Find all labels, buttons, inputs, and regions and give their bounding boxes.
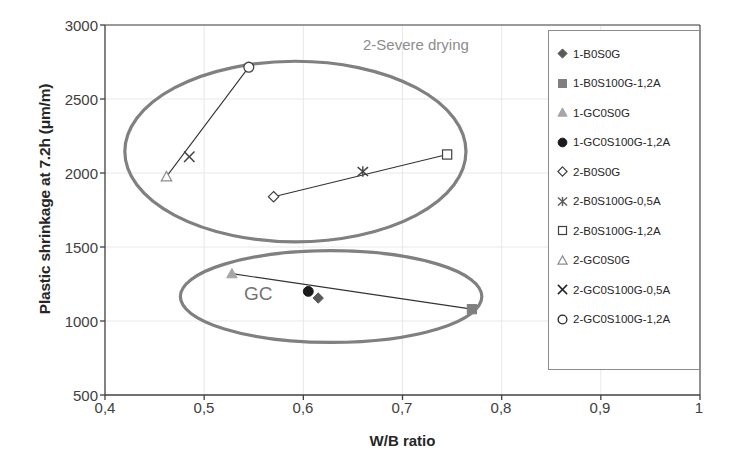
filled-triangle-icon [555, 105, 570, 120]
cross-x-icon [555, 282, 570, 297]
data-point [303, 286, 313, 296]
legend-item[interactable]: 2-GC0S100G-1,2A [555, 305, 699, 335]
data-point [227, 268, 237, 277]
legend-item-label: 2-GC0S0G [573, 254, 630, 266]
legend-item[interactable]: 1-B0S100G-1,2A [555, 69, 699, 99]
legend-item[interactable]: 1-GC0S100G-1,2A [555, 128, 699, 158]
open-triangle-icon [555, 253, 570, 268]
data-point [244, 62, 254, 72]
data-point [313, 293, 323, 303]
legend-item-label: 1-B0S0G [573, 48, 620, 60]
legend-item[interactable]: 2-B0S100G-1,2A [555, 216, 699, 246]
open-square-icon [555, 223, 570, 238]
data-markers [161, 62, 476, 314]
open-circle-icon [555, 312, 570, 327]
legend-item-label: 1-GC0S100G-1,2A [573, 136, 670, 148]
open-diamond-icon [555, 164, 570, 179]
data-point [184, 152, 194, 162]
legend-item-label: 2-B0S0G [573, 166, 620, 178]
data-point [358, 166, 368, 176]
legend-item-label: 2-B0S100G-0,5A [573, 195, 661, 207]
data-point [467, 305, 476, 314]
data-point [443, 150, 452, 159]
filled-square-icon [555, 76, 570, 91]
legend-item[interactable]: 1-B0S0G [555, 39, 699, 69]
legend-item[interactable]: 2-GC0S100G-0,5A [555, 275, 699, 305]
filled-circle-icon [555, 135, 570, 150]
legend-item[interactable]: 1-GC0S0G [555, 98, 699, 128]
connector-lines [166, 67, 471, 309]
data-point [268, 191, 278, 201]
legend-item[interactable]: 2-B0S0G [555, 157, 699, 187]
chart-root: Plastic shrinkage at 7.2h (μm/m) 3000 25… [0, 0, 735, 475]
annotation-gc: GC [244, 283, 273, 305]
annotation-severe-drying: 2-Severe drying [363, 36, 469, 53]
legend-item[interactable]: 2-GC0S0G [555, 246, 699, 276]
legend-item-label: 1-B0S100G-1,2A [573, 77, 661, 89]
filled-diamond-icon [555, 46, 570, 61]
legend-item-label: 2-B0S100G-1,2A [573, 225, 661, 237]
legend-item-label: 2-GC0S100G-0,5A [573, 284, 670, 296]
legend-item[interactable]: 2-B0S100G-0,5A [555, 187, 699, 217]
legend-item-label: 2-GC0S100G-1,2A [573, 313, 670, 325]
chart-legend: 1-B0S0G1-B0S100G-1,2A1-GC0S0G1-GC0S100G-… [548, 30, 700, 370]
asterisk-icon [555, 194, 570, 209]
legend-item-label: 1-GC0S0G [573, 107, 630, 119]
